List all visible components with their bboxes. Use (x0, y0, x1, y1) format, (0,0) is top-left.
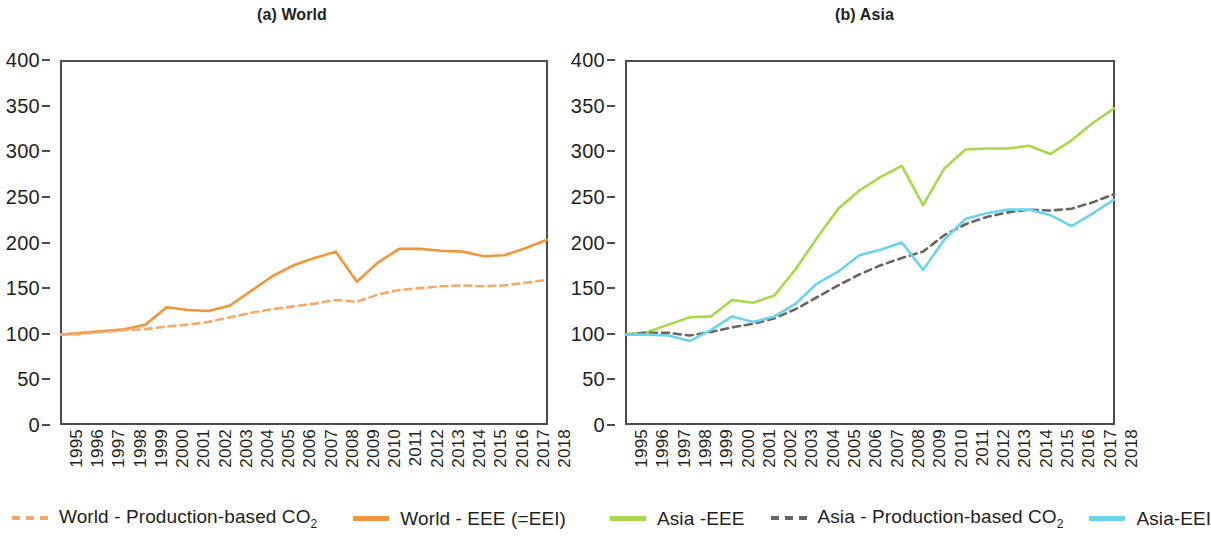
y-tick-label-world-300: 300 (6, 140, 40, 163)
legend-item-world-eee[interactable]: World - EEE (=EEI) (353, 508, 566, 530)
x-tick-label-world-2015: 2015 (491, 429, 511, 468)
series-line-asia-production-based-co2 (626, 194, 1114, 335)
legend: World - Production-based CO2World - EEE … (0, 496, 1169, 541)
legend-item-world-production-co2[interactable]: World - Production-based CO2 (12, 506, 317, 531)
x-tick-label-asia-2011: 2011 (973, 429, 993, 466)
x-tick-label-asia-2015: 2015 (1058, 429, 1078, 468)
panel-asia: (b) Asia 400350300250200150100500 199519… (560, 0, 1169, 495)
y-tick-label-asia-400: 400 (571, 49, 605, 72)
x-tick-label-asia-2017: 2017 (1101, 429, 1121, 468)
legend-swatch-asia-eei (1089, 516, 1125, 521)
y-tick-label-asia-300: 300 (571, 140, 605, 163)
x-tick-label-world-1995: 1995 (67, 429, 87, 468)
y-tick-mark-world-0 (42, 424, 50, 426)
x-tick-label-asia-2008: 2008 (909, 429, 929, 468)
x-tick-label-asia-1998: 1998 (696, 429, 716, 468)
legend-label-asia-eee: Asia -EEE (657, 508, 745, 530)
x-tick-label-asia-2004: 2004 (824, 429, 844, 468)
y-axis-asia: 400350300250200150100500 (567, 60, 615, 425)
x-tick-label-world-2003: 2003 (237, 429, 257, 468)
y-tick-label-asia-100: 100 (571, 322, 605, 345)
x-axis-world: 1995199619971998199920002001200220032004… (60, 429, 548, 499)
x-tick-label-asia-2013: 2013 (1015, 429, 1035, 468)
x-tick-label-asia-2007: 2007 (888, 429, 908, 468)
plot-lines-asia (625, 60, 1115, 425)
legend-label-asia-eei: Asia-EEI (1136, 508, 1211, 530)
y-tick-label-world-350: 350 (6, 94, 40, 117)
legend-label-asia-production-co2: Asia - Production-based CO2 (818, 506, 1064, 531)
y-tick-label-asia-150: 150 (571, 277, 605, 300)
y-tick-label-world-250: 250 (6, 185, 40, 208)
x-tick-label-asia-2014: 2014 (1037, 429, 1057, 468)
x-tick-label-world-2002: 2002 (216, 429, 236, 468)
y-tick-label-world-0: 0 (29, 414, 40, 437)
x-tick-label-asia-2003: 2003 (802, 429, 822, 468)
y-tick-label-world-200: 200 (6, 231, 40, 254)
y-tick-label-world-150: 150 (6, 277, 40, 300)
x-tick-label-asia-1999: 1999 (717, 429, 737, 468)
y-tick-mark-asia-0 (607, 424, 615, 426)
x-tick-label-world-1998: 1998 (131, 429, 151, 468)
legend-label-subscript-asia-production-co2: 2 (1057, 517, 1064, 531)
x-tick-label-world-2000: 2000 (173, 429, 193, 468)
panel-title-asia: (b) Asia (560, 6, 1169, 24)
x-tick-label-asia-2018: 2018 (1122, 429, 1142, 468)
panel-world: (a) World 400350300250200150100500 19951… (0, 0, 584, 495)
y-tick-label-asia-0: 0 (594, 414, 605, 437)
legend-item-asia-production-co2[interactable]: Asia - Production-based CO2 (771, 506, 1064, 531)
y-tick-mark-asia-350 (607, 105, 615, 107)
x-tick-label-asia-2010: 2010 (952, 429, 972, 468)
y-tick-mark-asia-400 (607, 59, 615, 61)
x-tick-label-world-1997: 1997 (109, 429, 129, 468)
x-tick-label-world-2004: 2004 (258, 429, 278, 468)
legend-item-asia-eee[interactable]: Asia -EEE (610, 508, 745, 530)
y-tick-mark-asia-200 (607, 242, 615, 244)
y-tick-mark-world-250 (42, 196, 50, 198)
y-tick-mark-world-400 (42, 59, 50, 61)
x-tick-label-asia-2005: 2005 (845, 429, 865, 468)
legend-label-world-eee: World - EEE (=EEI) (400, 508, 566, 530)
x-tick-label-asia-2002: 2002 (781, 429, 801, 468)
y-tick-label-asia-350: 350 (571, 94, 605, 117)
y-tick-mark-world-100 (42, 333, 50, 335)
x-tick-label-asia-1996: 1996 (653, 429, 673, 468)
series-line-asia-eee (626, 108, 1114, 334)
x-tick-label-asia-2009: 2009 (930, 429, 950, 468)
x-tick-label-world-1996: 1996 (88, 429, 108, 468)
legend-item-asia-eei[interactable]: Asia-EEI (1089, 508, 1211, 530)
y-tick-mark-world-200 (42, 242, 50, 244)
legend-label-subscript-world-production-co2: 2 (311, 517, 318, 531)
y-axis-world: 400350300250200150100500 (2, 60, 50, 425)
y-tick-label-world-100: 100 (6, 322, 40, 345)
x-tick-label-asia-1997: 1997 (675, 429, 695, 468)
x-tick-label-world-2010: 2010 (385, 429, 405, 468)
y-tick-mark-asia-150 (607, 287, 615, 289)
y-tick-mark-world-350 (42, 105, 50, 107)
x-tick-label-asia-2000: 2000 (739, 429, 759, 468)
legend-swatch-world-eee (353, 516, 389, 521)
x-tick-label-world-2006: 2006 (300, 429, 320, 468)
y-tick-mark-asia-300 (607, 150, 615, 152)
x-tick-label-world-2011: 2011 (406, 429, 426, 466)
plot-area-asia (625, 60, 1115, 425)
legend-swatch-asia-eee (610, 516, 646, 521)
y-tick-mark-world-50 (42, 378, 50, 380)
x-axis-asia: 1995199619971998199920002001200220032004… (625, 429, 1115, 499)
y-tick-mark-asia-100 (607, 333, 615, 335)
x-tick-label-asia-1995: 1995 (632, 429, 652, 468)
y-tick-label-asia-250: 250 (571, 185, 605, 208)
y-tick-mark-asia-50 (607, 378, 615, 380)
y-tick-mark-world-150 (42, 287, 50, 289)
plot-area-world (60, 60, 548, 425)
x-tick-label-world-2013: 2013 (449, 429, 469, 468)
x-tick-label-world-1999: 1999 (152, 429, 172, 468)
y-tick-label-asia-50: 50 (582, 368, 605, 391)
y-tick-label-world-50: 50 (17, 368, 40, 391)
y-tick-label-asia-200: 200 (571, 231, 605, 254)
legend-swatch-world-production-co2 (12, 516, 48, 520)
series-line-world-eee-eei (61, 240, 547, 335)
legend-label-world-production-co2: World - Production-based CO2 (59, 506, 317, 531)
x-tick-label-asia-2001: 2001 (760, 429, 780, 468)
x-tick-label-world-2007: 2007 (322, 429, 342, 468)
